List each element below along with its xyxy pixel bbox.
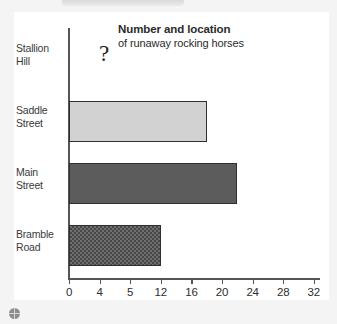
x-tick-16: [191, 278, 192, 284]
chart-card: Number and location of runaway rocking h…: [14, 12, 329, 300]
bar-bramble-road: [69, 225, 161, 266]
x-tick-label-5: 5: [115, 286, 145, 298]
unknown-value-marker: ?: [99, 41, 109, 67]
category-label-bramble-road: Bramble Road: [16, 228, 64, 254]
x-tick-32: [314, 278, 315, 284]
category-label-line1: Main: [16, 166, 38, 178]
bar-row-stallion-hill: Stallion Hill ?: [14, 28, 329, 90]
plot-area: Stallion Hill ? Saddle Street Main Stree…: [14, 28, 329, 279]
category-label-line1: Saddle: [16, 104, 48, 116]
x-tick-label-4: 4: [85, 286, 115, 298]
x-tick-24: [253, 278, 254, 284]
x-tick-0: [69, 278, 70, 284]
x-tick-20: [222, 278, 223, 284]
x-tick-label-24: 24: [238, 286, 268, 298]
category-label-line2: Hill: [16, 55, 30, 67]
x-tick-4: [100, 278, 101, 284]
category-label-stallion-hill: Stallion Hill: [16, 42, 64, 68]
bar-row-bramble-road: Bramble Road: [14, 214, 329, 276]
bar-row-saddle-street: Saddle Street: [14, 90, 329, 152]
x-tick-label-16: 16: [176, 286, 206, 298]
x-tick-label-12: 12: [146, 286, 176, 298]
category-label-line2: Road: [16, 241, 40, 253]
category-label-line2: Street: [16, 179, 43, 191]
x-tick-28: [283, 278, 284, 284]
category-label-line1: Bramble: [16, 228, 54, 240]
x-tick-label-20: 20: [207, 286, 237, 298]
globe-icon: [9, 308, 20, 319]
x-tick-label-0: 0: [54, 286, 84, 298]
category-label-saddle-street: Saddle Street: [16, 104, 64, 130]
top-banner-decoration: [62, 0, 184, 6]
bar-saddle-street: [69, 101, 207, 142]
category-label-line1: Stallion: [16, 42, 49, 54]
category-label-line2: Street: [16, 117, 43, 129]
x-tick-label-32: 32: [299, 286, 329, 298]
category-label-main-street: Main Street: [16, 166, 64, 192]
bar-main-street: [69, 163, 237, 204]
bar-row-main-street: Main Street: [14, 152, 329, 214]
x-tick-label-28: 28: [268, 286, 298, 298]
x-tick-12: [161, 278, 162, 284]
x-tick-5: [130, 278, 131, 284]
